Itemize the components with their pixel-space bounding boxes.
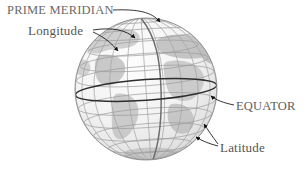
label-equator: EQUATOR	[236, 100, 296, 113]
latitude-leader-lower	[196, 137, 218, 146]
latitude-leader-upper	[204, 124, 218, 144]
globe-sphere	[71, 13, 227, 165]
label-prime-meridian: PRIME MERIDIAN	[7, 4, 114, 17]
globe-diagram-figure: PRIME MERIDIAN Longitude EQUATOR Latitud…	[0, 0, 308, 174]
label-latitude: Latitude	[220, 141, 265, 154]
label-longitude: Longitude	[28, 24, 83, 37]
